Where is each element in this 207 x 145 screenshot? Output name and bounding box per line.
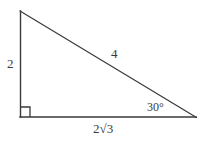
label-leg-horizontal: 2√3 (93, 122, 113, 135)
triangle-figure: 2 4 30° 2√3 (0, 0, 207, 145)
label-angle-measure: 30° (147, 101, 164, 113)
label-leg-vertical: 2 (7, 57, 14, 70)
label-hypotenuse: 4 (111, 47, 118, 60)
right-angle-marker-icon (20, 107, 30, 117)
label-leg-horizontal-radicand: 3 (107, 121, 114, 136)
hypotenuse-line (20, 11, 197, 118)
radical-expression: √3 (100, 122, 114, 135)
radical-sign-icon: √ (100, 121, 107, 136)
